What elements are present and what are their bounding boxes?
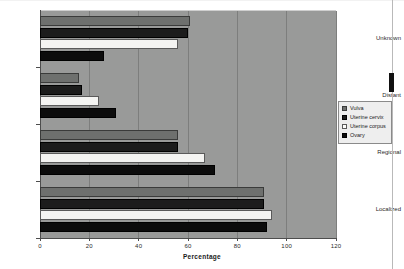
legend-label: Uterine corpus: [350, 123, 386, 130]
x-tick-label-60: 60: [184, 243, 191, 249]
bar-chart: 020406080100120 UnknownDistantRegionalLo…: [0, 0, 404, 269]
bar-localized-uterine-corpus: [40, 210, 272, 220]
legend-label: Ovary: [350, 132, 365, 139]
y-axis-tick: [36, 181, 40, 182]
scan-artifact-top-edge: [0, 0, 404, 1]
legend-item-uterine-cervix: Uterine cervix: [342, 113, 388, 121]
bar-distant-uterine-cervix: [40, 85, 82, 95]
scan-artifact-blob: [389, 73, 394, 92]
legend-swatch-icon: [342, 133, 347, 138]
x-axis-line: [40, 238, 337, 239]
x-tick-20: [89, 238, 90, 241]
legend-item-vulva: Vulva: [342, 104, 388, 112]
y-axis-tick: [36, 238, 40, 239]
x-tick-120: [336, 238, 337, 241]
bar-unknown-uterine-cervix: [40, 28, 188, 38]
bar-regional-ovary: [40, 165, 215, 175]
y-axis-label-localized: Localized: [366, 206, 404, 212]
legend-swatch-icon: [342, 124, 347, 129]
bar-localized-vulva: [40, 187, 264, 197]
x-tick-label-80: 80: [234, 243, 241, 249]
gridline-100: [286, 11, 287, 238]
legend-swatch-icon: [342, 106, 347, 111]
bar-regional-uterine-corpus: [40, 153, 205, 163]
legend-swatch-icon: [342, 115, 347, 120]
bar-unknown-vulva: [40, 16, 190, 26]
x-tick-label-20: 20: [86, 243, 93, 249]
bar-localized-uterine-cervix: [40, 199, 264, 209]
x-tick-label-0: 0: [38, 243, 42, 249]
y-axis-tick: [36, 67, 40, 68]
bar-unknown-uterine-corpus: [40, 39, 178, 49]
scan-artifact-line: [392, 0, 393, 269]
x-tick-80: [237, 238, 238, 241]
x-tick-100: [286, 238, 287, 241]
x-tick-label-40: 40: [135, 243, 142, 249]
x-tick-label-120: 120: [331, 243, 342, 249]
legend: VulvaUterine cervixUterine corpusOvary: [338, 101, 392, 144]
bar-regional-uterine-cervix: [40, 142, 178, 152]
bar-localized-ovary: [40, 222, 267, 232]
bar-distant-uterine-corpus: [40, 96, 99, 106]
y-axis-tick: [36, 124, 40, 125]
x-axis-title: Percentage: [0, 253, 404, 260]
bar-regional-vulva: [40, 130, 178, 140]
x-tick-label-100: 100: [281, 243, 292, 249]
legend-label: Uterine cervix: [350, 114, 384, 121]
y-axis-label-regional: Regional: [366, 149, 404, 155]
y-axis-label-unknown: Unknown: [366, 35, 404, 41]
legend-item-uterine-corpus: Uterine corpus: [342, 122, 388, 130]
gridline-120: [336, 11, 337, 238]
legend-item-ovary: Ovary: [342, 131, 388, 139]
x-tick-40: [138, 238, 139, 241]
bar-distant-vulva: [40, 73, 79, 83]
bar-distant-ovary: [40, 108, 116, 118]
legend-label: Vulva: [350, 105, 364, 112]
bar-unknown-ovary: [40, 51, 104, 61]
x-tick-60: [188, 238, 189, 241]
y-axis-label-distant: Distant: [366, 92, 404, 98]
